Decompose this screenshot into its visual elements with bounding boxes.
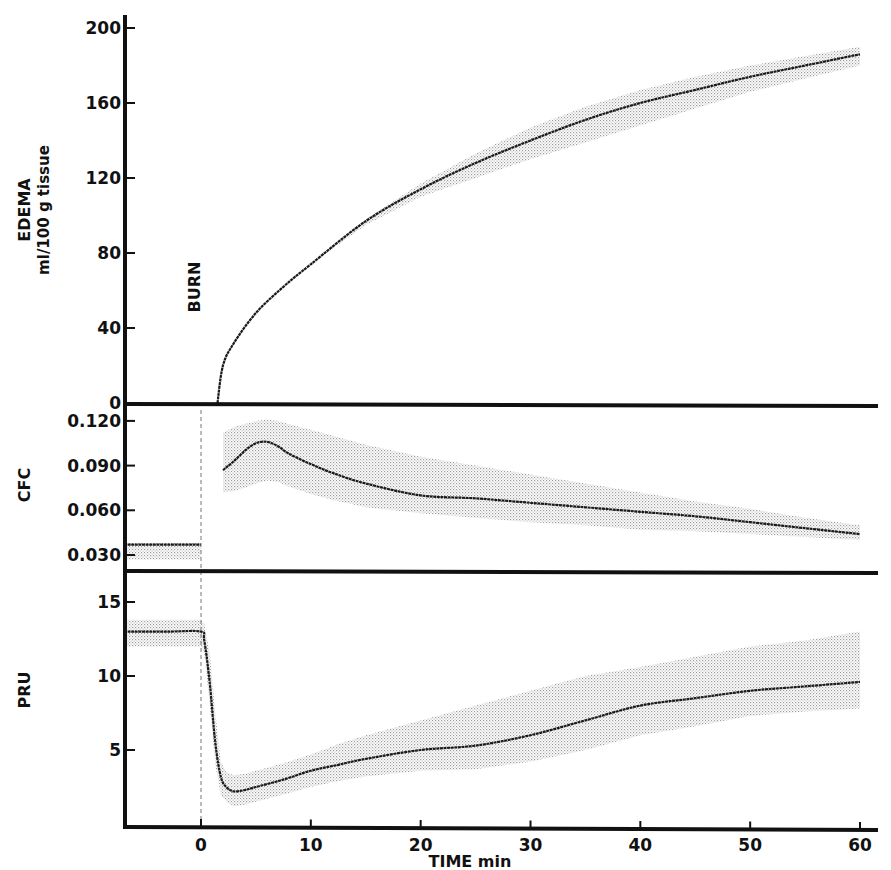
error-bands — [124, 47, 860, 806]
panel-axis-line-0 — [125, 404, 878, 406]
y-axis-title-pru: PRU — [15, 671, 34, 708]
y-tick-label: 80 — [97, 243, 121, 263]
y-tick-label: 0.090 — [67, 456, 121, 476]
chart-svg: 040801201602000.0300.0600.0900.120510150… — [0, 0, 891, 870]
y-axis-units-edema: ml/100 g tissue — [35, 145, 53, 275]
y-tick-label: 0.120 — [67, 411, 121, 431]
y-tick-label: 120 — [86, 168, 122, 188]
x-axis-title: TIME min — [429, 852, 512, 870]
y-tick-label: 10 — [97, 666, 121, 686]
y-axis-title-edema: EDEMA — [15, 178, 34, 242]
burn-annotation: BURN — [185, 262, 204, 313]
y-tick-label: 40 — [97, 318, 121, 338]
panel-axis-line-1 — [125, 571, 878, 573]
y-tick-label: 0.030 — [67, 545, 121, 565]
panel-axis-line-2 — [125, 827, 878, 830]
x-tick-label: 40 — [628, 835, 652, 855]
y-tick-label: 200 — [86, 18, 122, 38]
x-tick-label: 0 — [195, 835, 207, 855]
x-tick-label: 30 — [519, 835, 543, 855]
y-tick-label: 5 — [109, 740, 121, 760]
x-tick-label: 60 — [848, 835, 872, 855]
error-band-1-1 — [223, 419, 860, 540]
y-tick-label: 160 — [86, 93, 122, 113]
series-line-0-0 — [218, 54, 861, 403]
y-tick-label: 0.060 — [67, 500, 121, 520]
error-band-0-0 — [218, 47, 861, 403]
x-tick-label: 10 — [299, 835, 323, 855]
error-band-2-0 — [124, 620, 860, 806]
x-tick-label: 50 — [738, 835, 762, 855]
y-axis-title-cfc: CFC — [15, 468, 34, 502]
y-tick-label: 15 — [97, 592, 121, 612]
